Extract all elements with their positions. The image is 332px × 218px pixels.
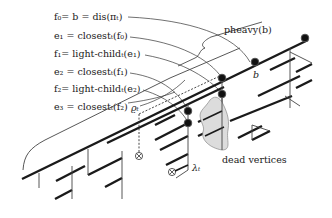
heavy-path-left-c (55, 190, 72, 199)
heavy-path-left-d (105, 178, 122, 187)
node-e1 (218, 74, 226, 82)
heavy-path-mid-c (160, 136, 188, 150)
node-b-label: b (253, 69, 259, 80)
dead-vertices-region (200, 97, 229, 150)
node-e2 (184, 107, 192, 115)
node-top-end (301, 34, 309, 42)
dead-vertices-label: dead vertices (222, 154, 287, 165)
arrow-e1 (130, 37, 222, 78)
otimes-icon-lambda (168, 168, 175, 175)
heavy-path-mid-d (166, 154, 188, 165)
label-f2: f₂= light-childₜ(e₂) (54, 83, 140, 94)
heavy-paths (22, 40, 312, 199)
vertical-edge (285, 96, 300, 106)
lambda-label: λₜ (191, 162, 201, 173)
label-e3: e₃ = closestₜ(f₂) (54, 101, 128, 112)
node-f2 (184, 119, 192, 127)
label-list: f₀= b = dis(πₜ) e₁ = closestₜ(f₀) f₁= li… (54, 11, 140, 112)
lambda-edge (175, 165, 188, 171)
edge-to-lambda (176, 170, 188, 178)
heavy-path-right-a (270, 58, 295, 70)
heavy-path-right-d (296, 80, 312, 88)
heavy-path-right-g (252, 131, 270, 140)
tree-diagram: f₀= b = dis(πₜ) e₁ = closestₜ(f₀) f₁= li… (0, 0, 332, 218)
otimes-icon-rho (135, 152, 142, 159)
outline-curve-upper (170, 48, 240, 78)
node-f1 (218, 90, 226, 98)
node-b (251, 58, 259, 66)
heavy-path-right-e (230, 96, 292, 121)
label-e2: e₂ = closestₜ(f₁) (54, 66, 128, 77)
label-e1: e₁ = closestₜ(f₀) (54, 30, 128, 41)
heavy-path-right-b (296, 64, 312, 72)
pheavy-label: pheavy(b) (224, 24, 272, 35)
label-f0: f₀= b = dis(πₜ) (54, 11, 122, 22)
label-f1: f₁= light-childₜ(e₁) (54, 48, 140, 59)
heavy-path-right-c (258, 76, 300, 96)
rho-label: ϱₜ (131, 102, 140, 113)
heavy-path-left-b (88, 158, 122, 175)
heavy-path-left-a (56, 166, 85, 181)
